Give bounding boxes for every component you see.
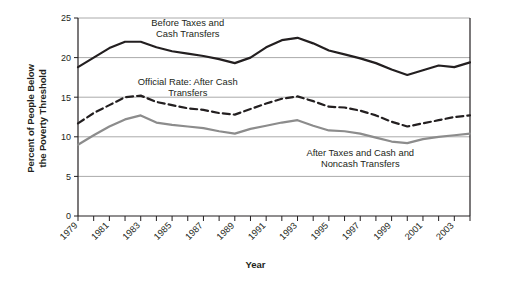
x-axis-ticks: 1979198119831985198719891991199319951997… [58,216,470,242]
series-label-1-line2: Transfers [168,87,208,98]
svg-text:1987: 1987 [183,220,205,242]
line-chart-plot: 0510152025 19791981198319851987198919911… [0,0,511,284]
series-line-0 [78,38,470,75]
svg-text:20: 20 [61,53,71,63]
svg-text:1995: 1995 [309,220,331,242]
svg-text:5: 5 [66,172,71,182]
svg-text:10: 10 [61,132,71,142]
data-series-group [78,38,470,145]
x-axis-title: Year [0,259,511,270]
series-label-1-line1: Official Rate: After Cash [138,76,238,87]
svg-text:1991: 1991 [246,220,268,242]
svg-text:2001: 2001 [403,220,425,242]
svg-text:2003: 2003 [434,220,456,242]
svg-text:25: 25 [61,13,71,23]
series-label-2-line2: Noncash Transfers [321,158,400,169]
series-annotations: Before Taxes andCash TransfersOfficial R… [138,17,414,169]
series-label-0-line1: Before Taxes and [151,17,224,28]
svg-text:1979: 1979 [58,220,80,242]
svg-text:1981: 1981 [89,220,111,242]
svg-text:1983: 1983 [121,220,143,242]
svg-text:0: 0 [66,211,71,221]
svg-text:1993: 1993 [277,220,299,242]
svg-text:1989: 1989 [215,220,237,242]
series-line-2 [78,115,470,144]
y-axis-ticks: 0510152025 [61,13,78,221]
svg-text:1997: 1997 [340,220,362,242]
svg-text:1999: 1999 [371,220,393,242]
series-label-0-line2: Cash Transfers [156,28,220,39]
series-line-1 [78,96,470,127]
chart-figure: Percent of People Below the Poverty Thre… [0,0,511,284]
series-label-2-line1: After Taxes and Cash and [306,147,414,158]
svg-text:1985: 1985 [152,220,174,242]
svg-text:15: 15 [61,93,71,103]
